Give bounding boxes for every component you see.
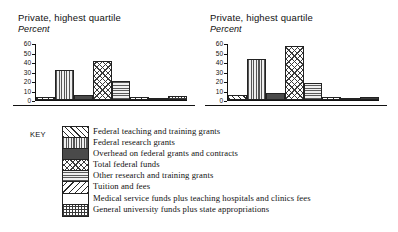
y-tick-mark-left [32,92,35,93]
legend-swatch-column [62,126,89,217]
y-tick-label-right: 40 [216,60,223,67]
x-axis-line-left [35,100,187,101]
bar-left-1 [36,97,55,100]
bar-right-8 [360,97,379,100]
bar-group-right [228,44,379,100]
y-tick-label-left: 40 [24,60,31,67]
y-tick-mark-left [32,44,35,45]
bar-right-4 [285,46,304,100]
bar-right-5 [304,83,323,100]
y-tick-label-right: 20 [216,79,223,86]
bar-left-2 [55,70,74,100]
chart-title-right: Private, highest quartile [210,12,313,23]
y-tick-mark-left [32,54,35,55]
y-tick-label-right: 0 [219,98,223,105]
legend-item-label: Total federal funds [93,159,311,170]
y-tick-label-left: 10 [24,88,31,95]
figure-page: Private, highest quartile Percent 605040… [0,0,398,232]
legend-swatch-3 [63,149,88,160]
legend-swatch-4 [63,160,88,171]
y-tick-mark-left [32,82,35,83]
charts-row: Private, highest quartile Percent 605040… [0,0,398,122]
legend-key-label: KEY [30,130,46,139]
y-tick-mark-right [224,54,227,55]
legend-label-column: Federal teaching and training grantsFede… [93,126,311,215]
legend-item-label: Federal research grants [93,137,311,148]
bar-left-8 [168,96,187,100]
legend-item-label: Medical service funds plus teaching hosp… [93,193,311,204]
y-tick-label-right: 30 [216,69,223,76]
bar-right-6 [322,97,341,100]
plot-area-right: 6050403020100 [227,44,379,101]
chart-title-left: Private, highest quartile [18,12,121,23]
y-tick-label-left: 30 [24,69,31,76]
x-axis-line-right [227,100,379,101]
legend: KEY Federal teaching and training grants… [0,124,398,232]
bar-right-3 [266,93,285,100]
y-tick-mark-right [224,92,227,93]
legend-swatch-6 [63,182,88,193]
legend-item-label: Other research and training grants [93,170,311,181]
y-tick-mark-right [224,101,227,102]
bar-right-1 [228,95,247,100]
bar-right-2 [247,59,266,100]
legend-item-label: General university funds plus state appr… [93,204,311,215]
legend-item-label: Tuition and fees [93,181,311,192]
bar-right-7 [341,98,360,100]
y-tick-mark-left [32,63,35,64]
legend-swatch-1 [63,127,88,138]
y-tick-label-left: 60 [24,41,31,48]
y-tick-mark-right [224,73,227,74]
plot-area-left: 6050403020100 [35,44,187,101]
y-tick-label-left: 20 [24,79,31,86]
y-tick-label-right: 50 [216,50,223,57]
legend-item-label: Federal teaching and training grants [93,126,311,137]
y-tick-mark-right [224,44,227,45]
y-tick-label-right: 60 [216,41,223,48]
legend-swatch-5 [63,171,88,182]
bar-left-4 [93,61,112,100]
bar-left-3 [74,95,93,100]
chart-panel-left: Private, highest quartile Percent 605040… [8,0,198,122]
y-tick-label-left: 50 [24,50,31,57]
y-tick-label-left: 0 [27,98,31,105]
y-tick-mark-left [32,73,35,74]
bar-left-5 [112,81,131,100]
baseline-extension-right [205,105,387,106]
legend-swatch-2 [63,138,88,149]
chart-panel-right: Private, highest quartile Percent 605040… [200,0,390,122]
bar-group-left [36,44,187,100]
bar-left-7 [149,98,168,100]
legend-item-label: Overhead on federal grants and contracts [93,148,311,159]
y-tick-mark-right [224,82,227,83]
bar-left-6 [130,97,149,100]
baseline-extension-left [13,105,195,106]
y-tick-mark-right [224,63,227,64]
y-tick-mark-left [32,101,35,102]
legend-swatch-7 [63,194,88,205]
legend-swatch-8 [63,205,88,216]
chart-subtitle-left: Percent [18,24,50,34]
chart-subtitle-right: Percent [210,24,242,34]
y-tick-label-right: 10 [216,88,223,95]
